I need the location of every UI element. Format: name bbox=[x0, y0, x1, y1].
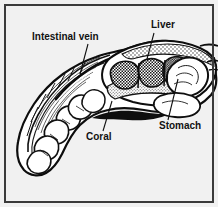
label-coral: Coral bbox=[86, 132, 112, 142]
hindgut-mass bbox=[154, 93, 200, 117]
label-liver: Liver bbox=[151, 20, 175, 30]
stomach-outline bbox=[167, 58, 208, 97]
liver-lobe-1 bbox=[110, 61, 139, 89]
anatomy-figure: Intestinal vein Liver Coral Stomach bbox=[0, 0, 218, 207]
label-stomach: Stomach bbox=[159, 121, 201, 131]
label-intestinal-vein: Intestinal vein bbox=[32, 32, 99, 42]
liver-lobe-2 bbox=[138, 59, 166, 87]
